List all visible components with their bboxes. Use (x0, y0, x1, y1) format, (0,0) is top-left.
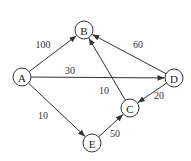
edge-d-b (92, 34, 166, 73)
edges-layer (29, 34, 167, 136)
arrow-line (92, 34, 166, 73)
edge-weight-label: 50 (110, 128, 120, 139)
arrow-line (31, 77, 165, 78)
node-label: A (18, 72, 26, 84)
node-b: B (75, 21, 93, 39)
edge-a-d (31, 77, 165, 78)
edge-weight-label: 20 (154, 90, 164, 101)
node-label: E (89, 138, 96, 150)
node-e: E (83, 134, 101, 152)
edge-weight-label: 10 (99, 85, 109, 96)
node-a: A (13, 68, 31, 86)
node-d: D (165, 69, 183, 87)
node-label: B (80, 25, 87, 37)
node-c: C (121, 99, 139, 117)
weights-layer: 100301060102050 (36, 39, 165, 139)
graph-diagram: 100301060102050 ABCDE (0, 0, 191, 161)
node-label: D (170, 73, 178, 85)
edge-weight-label: 10 (38, 110, 48, 121)
edge-weight-label: 60 (133, 39, 143, 50)
node-label: C (126, 103, 133, 115)
edge-weight-label: 100 (36, 39, 51, 50)
edge-weight-label: 30 (65, 65, 75, 76)
